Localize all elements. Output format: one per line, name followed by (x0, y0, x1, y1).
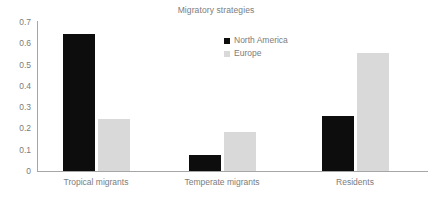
x-tick-label: Temperate migrants (184, 177, 259, 187)
x-tick-label: Tropical migrants (64, 177, 129, 187)
legend-item-europe: Europe (224, 48, 288, 59)
y-tick-label: 0.6 (0, 39, 31, 48)
legend-item-north-america: North America (224, 35, 288, 46)
bar-north-america-temperate-migrants (189, 155, 221, 171)
y-tick-label: 0.4 (0, 82, 31, 91)
y-tick-label: 0.5 (0, 61, 31, 70)
legend-swatch-icon-europe (224, 51, 230, 57)
x-axis-line (37, 171, 428, 172)
chart-legend: North America Europe (224, 35, 288, 61)
chart-title: Migratory strategies (0, 5, 432, 15)
y-tick-label: 0.7 (0, 18, 31, 27)
bar-north-america-residents (322, 116, 354, 171)
y-tick-label: 0 (0, 167, 31, 176)
y-axis-tick-labels: 0.70.60.50.40.30.20.10 (0, 0, 34, 198)
bar-europe-residents (357, 53, 389, 171)
bar-north-america-tropical-migrants (63, 34, 95, 171)
y-tick-label: 0.2 (0, 124, 31, 133)
y-tick-label: 0.3 (0, 103, 31, 112)
bar-europe-temperate-migrants (224, 132, 256, 171)
x-tick-label: Residents (336, 177, 374, 187)
y-tick-label: 0.1 (0, 146, 31, 155)
bar-europe-tropical-migrants (98, 119, 130, 171)
legend-label-north-america: North America (234, 36, 288, 45)
legend-swatch-icon-north-america (224, 38, 230, 44)
bar-chart: Migratory strategies 0.70.60.50.40.30.20… (0, 0, 432, 198)
legend-label-europe: Europe (234, 49, 261, 58)
